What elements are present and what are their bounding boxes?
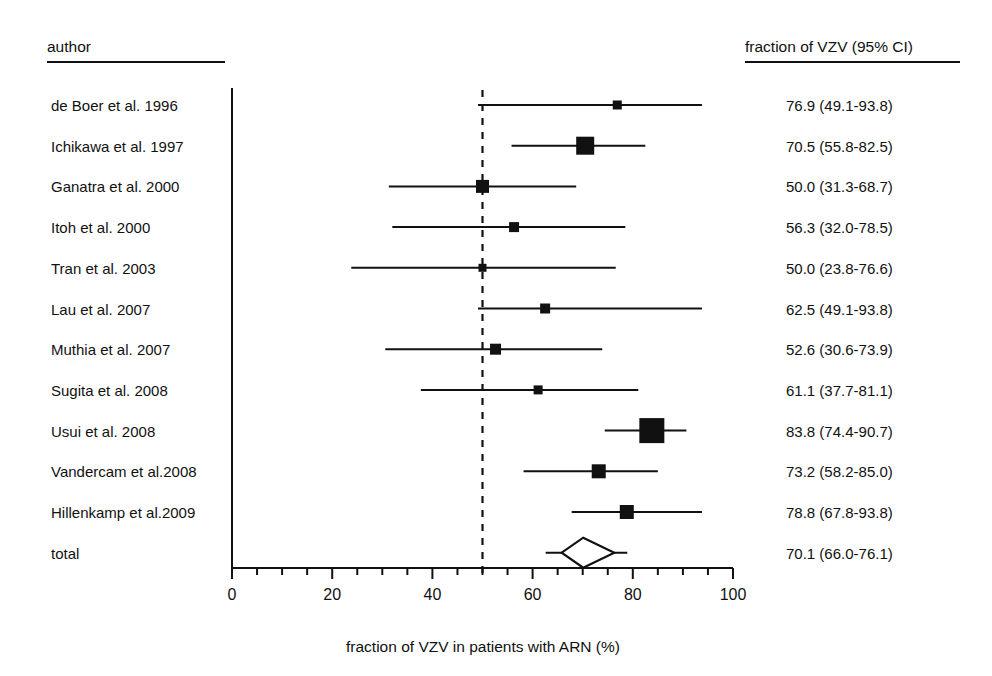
study-row-mark: [385, 344, 602, 355]
effect-estimate-marker: [534, 385, 543, 394]
x-axis-tick-label: 40: [423, 586, 441, 604]
study-row-mark: [389, 180, 576, 193]
study-row-label: Vandercam et al.2008: [51, 463, 197, 480]
effect-estimate-marker: [639, 418, 664, 443]
study-row-label: Itoh et al. 2000: [51, 219, 150, 236]
effect-estimate-marker: [576, 137, 594, 155]
study-row-value: 78.8 (67.8-93.8): [786, 504, 893, 521]
summary-diamond: [562, 538, 615, 568]
study-row-mark: [478, 101, 702, 110]
summary-row-mark: [546, 538, 628, 568]
study-row-value: 62.5 (49.1-93.8): [786, 300, 893, 317]
study-row-mark: [478, 304, 702, 314]
study-row-label: Usui et al. 2008: [51, 422, 155, 439]
study-row-mark: [605, 418, 687, 443]
x-axis-tick-label: 60: [524, 586, 542, 604]
x-axis-tick-label: 100: [720, 586, 747, 604]
effect-estimate-marker: [620, 505, 634, 519]
effect-estimate-marker: [476, 180, 489, 193]
x-axis-tick-label: 20: [323, 586, 341, 604]
study-row-value: 83.8 (74.4-90.7): [786, 422, 893, 439]
study-marks-group: [351, 101, 702, 568]
study-row-value: 76.9 (49.1-93.8): [786, 97, 893, 114]
study-row-value: 73.2 (58.2-85.0): [786, 463, 893, 480]
effect-estimate-marker: [509, 222, 519, 232]
study-row-mark: [392, 222, 625, 232]
study-row-label: Ganatra et al. 2000: [51, 178, 179, 195]
study-row-mark: [351, 264, 616, 272]
forest-plot-figure: author fraction of VZV (95% CI) de Boer …: [0, 0, 992, 676]
study-row-label: Muthia et al. 2007: [51, 341, 170, 358]
study-row-label: Ichikawa et al. 1997: [51, 137, 184, 154]
study-row-value: 70.5 (55.8-82.5): [786, 137, 893, 154]
study-row-mark: [572, 505, 702, 519]
effect-estimate-marker: [592, 464, 606, 478]
effect-estimate-marker: [479, 264, 487, 272]
study-row-mark: [512, 137, 646, 155]
study-row-value: 50.0 (23.8-76.6): [786, 259, 893, 276]
effect-estimate-marker: [613, 101, 622, 110]
x-axis-title: fraction of VZV in patients with ARN (%): [346, 638, 620, 656]
summary-row-value: 70.1 (66.0-76.1): [786, 544, 893, 561]
study-row-value: 61.1 (37.7-81.1): [786, 381, 893, 398]
study-row-label: Lau et al. 2007: [51, 300, 150, 317]
summary-row-label: total: [51, 544, 79, 561]
study-row-label: de Boer et al. 1996: [51, 97, 178, 114]
effect-estimate-marker: [540, 304, 550, 314]
study-row-mark: [421, 385, 638, 394]
study-row-mark: [524, 464, 658, 478]
x-axis-tick-label: 80: [624, 586, 642, 604]
study-row-label: Sugita et al. 2008: [51, 381, 168, 398]
study-row-value: 56.3 (32.0-78.5): [786, 219, 893, 236]
study-row-value: 52.6 (30.6-73.9): [786, 341, 893, 358]
study-row-label: Hillenkamp et al.2009: [51, 504, 195, 521]
x-axis-tick-label: 0: [228, 586, 237, 604]
study-row-label: Tran et al. 2003: [51, 259, 156, 276]
study-row-value: 50.0 (31.3-68.7): [786, 178, 893, 195]
effect-estimate-marker: [490, 344, 501, 355]
